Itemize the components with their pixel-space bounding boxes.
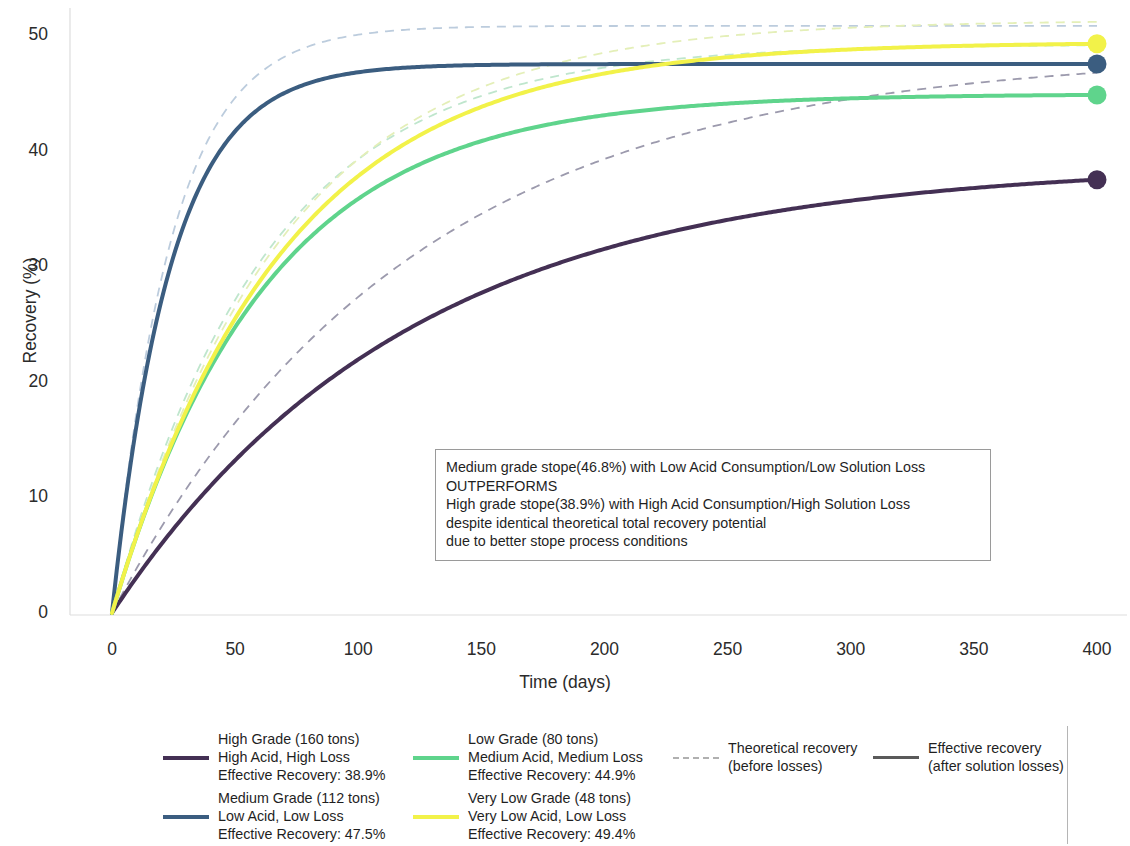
- plot-area: 01020304050050100150200250300350400: [0, 0, 1130, 700]
- x-tick-250: 250: [698, 641, 758, 659]
- legend-line-3: Effective Recovery: 38.9%: [218, 766, 385, 784]
- legend-grid: High Grade (160 tons) High Acid, High Lo…: [163, 726, 1068, 844]
- x-tick-350: 350: [944, 641, 1004, 659]
- legend-line-2: Medium Acid, Medium Loss: [468, 748, 643, 766]
- legend-label-theoretical: Theoretical recovery (before losses): [728, 739, 858, 775]
- legend-label-very-low-grade: Very Low Grade (48 tons) Very Low Acid, …: [468, 789, 635, 843]
- legend-swatch-effective: [873, 756, 919, 759]
- legend-line-1: Low Grade (80 tons): [468, 730, 643, 748]
- legend-swatch-medium-grade: [163, 815, 209, 819]
- legend-item-theoretical[interactable]: Theoretical recovery (before losses): [673, 726, 873, 786]
- x-tick-300: 300: [821, 641, 881, 659]
- legend-line-1: High Grade (160 tons): [218, 730, 385, 748]
- y-tick-10: 10: [2, 488, 48, 506]
- endpoint-marker: [1088, 55, 1107, 74]
- annotation-textbox: Medium grade stope(46.8%) with Low Acid …: [435, 449, 991, 561]
- legend-item-effective[interactable]: Effective recovery (after solution losse…: [873, 726, 1088, 786]
- legend-line-3: Effective Recovery: 47.5%: [218, 825, 385, 843]
- legend-item-high-grade[interactable]: High Grade (160 tons) High Acid, High Lo…: [163, 726, 413, 786]
- legend-swatch-theoretical: [673, 757, 719, 759]
- endpoint-marker: [1088, 34, 1107, 53]
- x-tick-100: 100: [328, 641, 388, 659]
- x-tick-0: 0: [82, 641, 142, 659]
- chart-figure: 01020304050050100150200250300350400 Reco…: [0, 0, 1130, 846]
- y-tick-40: 40: [2, 142, 48, 160]
- y-axis-label: Recovery (%): [20, 231, 41, 391]
- legend-label-medium-grade: Medium Grade (112 tons) Low Acid, Low Lo…: [218, 789, 385, 843]
- legend-label-low-grade: Low Grade (80 tons) Medium Acid, Medium …: [468, 730, 643, 784]
- legend-line-3: Effective Recovery: 44.9%: [468, 766, 643, 784]
- legend-line-2: (before losses): [728, 757, 858, 775]
- annotation-line-1: Medium grade stope(46.8%) with Low Acid …: [446, 458, 981, 477]
- legend-item-low-grade[interactable]: Low Grade (80 tons) Medium Acid, Medium …: [413, 726, 673, 786]
- y-tick-0: 0: [2, 604, 48, 622]
- x-tick-50: 50: [205, 641, 265, 659]
- annotation-line-3: High grade stope(38.9%) with High Acid C…: [446, 495, 981, 514]
- annotation-line-4: despite identical theoretical total reco…: [446, 514, 981, 533]
- x-tick-400: 400: [1067, 641, 1127, 659]
- legend-line-1: Effective recovery: [928, 739, 1064, 757]
- legend-swatch-very-low-grade: [413, 815, 459, 819]
- recovery-curves-svg: [0, 0, 1130, 700]
- y-tick-50: 50: [2, 26, 48, 44]
- legend-label-effective: Effective recovery (after solution losse…: [928, 739, 1064, 775]
- legend-line-2: (after solution losses): [928, 757, 1064, 775]
- legend-line-1: Medium Grade (112 tons): [218, 789, 385, 807]
- legend-label-high-grade: High Grade (160 tons) High Acid, High Lo…: [218, 730, 385, 784]
- x-tick-200: 200: [575, 641, 635, 659]
- x-tick-150: 150: [451, 641, 511, 659]
- legend-item-medium-grade[interactable]: Medium Grade (112 tons) Low Acid, Low Lo…: [163, 786, 413, 844]
- legend-line-2: Low Acid, Low Loss: [218, 807, 385, 825]
- x-axis-label: Time (days): [0, 672, 1130, 693]
- legend-item-very-low-grade[interactable]: Very Low Grade (48 tons) Very Low Acid, …: [413, 786, 673, 844]
- chart-legend: High Grade (160 tons) High Acid, High Lo…: [163, 726, 1068, 844]
- legend-line-1: Very Low Grade (48 tons): [468, 789, 635, 807]
- legend-line-1: Theoretical recovery: [728, 739, 858, 757]
- legend-line-2: Very Low Acid, Low Loss: [468, 807, 635, 825]
- endpoint-marker: [1088, 170, 1107, 189]
- annotation-line-2: OUTPERFORMS: [446, 477, 981, 496]
- annotation-line-5: due to better stope process conditions: [446, 532, 981, 551]
- legend-swatch-low-grade: [413, 756, 459, 760]
- endpoint-marker: [1088, 85, 1107, 104]
- legend-line-3: Effective Recovery: 49.4%: [468, 825, 635, 843]
- legend-line-2: High Acid, High Loss: [218, 748, 385, 766]
- legend-swatch-high-grade: [163, 756, 209, 760]
